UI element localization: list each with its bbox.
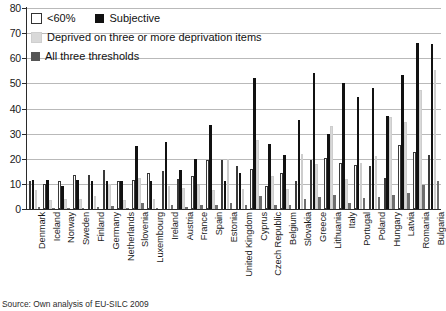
x-label-portugal: Portugal xyxy=(363,212,372,246)
bar-all_three xyxy=(333,195,336,209)
y-axis-tick-50: 50 xyxy=(10,78,21,89)
bar-all_three xyxy=(422,185,425,209)
y-axis-tick-20: 20 xyxy=(10,154,21,165)
legend-row-2: Deprived on three or more deprivation it… xyxy=(31,28,281,47)
bar-deprived3plus xyxy=(227,159,230,209)
bar-group xyxy=(324,8,335,209)
y-tick-mark-50 xyxy=(22,83,27,84)
x-label-austria: Austria xyxy=(186,212,195,240)
x-label-bulgaria: Bulgaria xyxy=(437,212,446,245)
x-label-spain: Spain xyxy=(215,212,224,235)
x-label-luxembourg: Luxembourg xyxy=(156,212,165,263)
bar-all_three xyxy=(245,205,248,209)
bar-all_three xyxy=(348,203,351,209)
x-axis-line xyxy=(26,209,441,210)
x-label-ireland: Ireland xyxy=(171,212,180,240)
y-tick-mark-70 xyxy=(22,33,27,34)
x-label-slovenia: Slovenia xyxy=(141,212,150,247)
legend-label-all-three: All three thresholds xyxy=(45,51,139,62)
legend-label-subjective: Subjective xyxy=(109,13,160,24)
bar-all_three xyxy=(392,195,395,209)
bar-group xyxy=(339,8,350,209)
bar-all_three xyxy=(97,207,100,209)
x-label-estonia: Estonia xyxy=(230,212,239,242)
y-tick-mark-30 xyxy=(22,134,27,135)
x-label-slovakia: Slovakia xyxy=(304,212,313,246)
bar-all_three xyxy=(111,206,114,209)
bar-group xyxy=(369,8,380,209)
bar-all_three xyxy=(126,208,129,209)
bar-all_three xyxy=(230,203,233,209)
x-label-finland: Finland xyxy=(97,212,106,242)
x-label-iceland: Iceland xyxy=(53,212,62,241)
bar-all_three xyxy=(437,181,440,209)
bar-all_three xyxy=(141,203,144,209)
bar-group xyxy=(398,8,409,209)
x-label-czech-republic: Czech Republic xyxy=(274,212,283,276)
bar-all_three xyxy=(82,208,85,209)
bar-all_three xyxy=(171,205,174,209)
y-axis-tick-40: 40 xyxy=(10,103,21,114)
bar-all_three xyxy=(200,205,203,209)
bar-all_three xyxy=(185,207,188,210)
y-axis-tick-30: 30 xyxy=(10,128,21,139)
x-label-germany: Germany xyxy=(112,212,121,250)
x-label-norway: Norway xyxy=(67,212,76,243)
legend-swatch-lt60-icon xyxy=(31,13,42,24)
chart-legend: <60% Subjective Deprived on three or mor… xyxy=(31,9,281,66)
legend-label-deprived: Deprived on three or more deprivation it… xyxy=(47,32,262,43)
bar-all_three xyxy=(67,208,70,209)
x-axis-category-labels: DenmarkIcelandNorwaySwedenFinlandGermany… xyxy=(27,212,441,294)
y-axis-tick-70: 70 xyxy=(10,28,21,39)
x-label-denmark: Denmark xyxy=(38,212,47,249)
legend-label-lt60: <60% xyxy=(47,13,75,24)
legend-swatch-all-three-icon xyxy=(31,52,40,61)
bar-all_three xyxy=(318,197,321,209)
x-label-sweden: Sweden xyxy=(82,212,91,245)
legend-item-lt60: <60% xyxy=(31,13,75,24)
y-axis-tick-10: 10 xyxy=(10,179,21,190)
legend-item-all-three: All three thresholds xyxy=(31,51,139,62)
x-label-lithuania: Lithuania xyxy=(334,212,343,249)
legend-row-1: <60% Subjective xyxy=(31,9,281,28)
x-label-france: France xyxy=(200,212,209,240)
bar-all_three xyxy=(52,208,55,209)
y-axis-tick-80: 80 xyxy=(10,3,21,14)
x-label-united-kingdom: United Kingdom xyxy=(245,212,254,277)
y-tick-mark-60 xyxy=(22,58,27,59)
y-tick-mark-20 xyxy=(22,159,27,160)
bar-all_three xyxy=(156,208,159,210)
bar-group xyxy=(354,8,365,209)
bar-group xyxy=(428,8,439,209)
bar-group xyxy=(280,8,291,209)
y-tick-mark-80 xyxy=(22,8,27,9)
bar-all_three xyxy=(378,197,381,209)
legend-item-deprived: Deprived on three or more deprivation it… xyxy=(31,32,262,43)
bar-group xyxy=(413,8,424,209)
bar-all_three xyxy=(407,193,410,209)
bar-all_three xyxy=(304,199,307,209)
y-tick-mark-10 xyxy=(22,184,27,185)
bar-group xyxy=(310,8,321,209)
bar-all_three xyxy=(363,198,366,209)
y-axis-tick-60: 60 xyxy=(10,53,21,64)
bar-all_three xyxy=(289,205,292,209)
x-label-latvia: Latvia xyxy=(407,212,416,236)
x-label-netherlands: Netherlands xyxy=(127,212,136,261)
x-label-italy: Italy xyxy=(348,212,357,229)
chart-source-note: Source: Own analysis of EU-SILC 2009 xyxy=(2,299,149,309)
y-tick-mark-0 xyxy=(22,209,27,210)
legend-row-3: All three thresholds xyxy=(31,47,281,66)
bar-all_three xyxy=(259,196,262,209)
legend-item-subjective: Subjective xyxy=(95,13,160,24)
bar-all_three xyxy=(274,205,277,209)
legend-swatch-subjective-icon xyxy=(95,14,104,23)
y-axis-tick-0: 0 xyxy=(15,204,21,215)
x-label-romania: Romania xyxy=(422,212,431,249)
x-label-hungary: Hungary xyxy=(393,212,402,246)
x-label-cyprus: Cyprus xyxy=(260,212,269,241)
bar-group xyxy=(295,8,306,209)
y-axis-tick-labels: 01020304050607080 xyxy=(0,0,24,220)
